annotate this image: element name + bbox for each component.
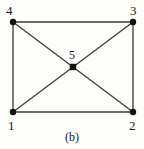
node-label-3: 3 [130,4,137,17]
node-1 [10,109,16,115]
node-label-4: 4 [6,4,13,17]
figure-caption: (b) [0,130,144,145]
graph-drawing [0,0,144,149]
node-3 [130,19,136,25]
edge-1-5 [13,67,73,112]
node-5 [70,64,76,70]
edge-5-2 [73,67,133,112]
edge-5-3 [73,22,133,67]
figure-container: 4 3 1 2 5 (b) [0,0,144,149]
edge-4-5 [13,22,73,67]
node-2 [130,109,136,115]
node-label-5: 5 [69,49,75,62]
node-4 [10,19,16,25]
